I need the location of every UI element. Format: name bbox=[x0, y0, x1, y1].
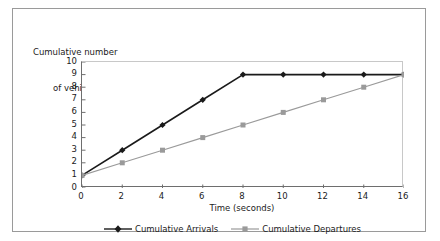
data-point-marker bbox=[82, 173, 85, 178]
data-point-marker bbox=[320, 72, 326, 78]
chart-figure: Cumulative number of vehicles 0123456789… bbox=[0, 0, 440, 241]
data-point-marker bbox=[200, 135, 205, 140]
data-point-marker bbox=[361, 85, 366, 90]
y-tick-label: 6 bbox=[61, 107, 77, 116]
legend-item-cumulative-arrivals: Cumulative Arrivals bbox=[103, 224, 218, 234]
y-axis-title-line-1: Cumulative number bbox=[33, 46, 213, 58]
y-tick-label: 2 bbox=[61, 157, 77, 166]
legend-item-cumulative-departures: Cumulative Departures bbox=[230, 224, 361, 234]
y-tick-label: 5 bbox=[61, 120, 77, 129]
x-tick-label: 2 bbox=[109, 191, 133, 201]
y-tick-label: 3 bbox=[61, 145, 77, 154]
x-axis-tick-labels: 0246810121416 bbox=[81, 191, 403, 203]
chart-frame: Cumulative number of vehicles 0123456789… bbox=[12, 8, 426, 232]
legend-marker-square-icon bbox=[230, 224, 260, 234]
y-tick-label: 7 bbox=[61, 94, 77, 103]
x-axis-title: Time (seconds) bbox=[81, 203, 403, 213]
legend-marker-diamond-icon bbox=[103, 224, 133, 234]
data-point-marker bbox=[120, 160, 125, 165]
plot-svg bbox=[82, 62, 404, 188]
data-point-marker bbox=[321, 97, 326, 102]
data-point-marker bbox=[241, 123, 246, 128]
series-layer bbox=[82, 62, 404, 188]
plot-area bbox=[81, 61, 403, 187]
x-tick-label: 0 bbox=[69, 191, 93, 201]
x-tick-label: 4 bbox=[150, 191, 174, 201]
y-tick-label: 10 bbox=[61, 57, 77, 66]
data-point-marker bbox=[361, 72, 367, 78]
x-tick-label: 10 bbox=[270, 191, 294, 201]
legend-label-cumulative-departures: Cumulative Departures bbox=[262, 224, 361, 234]
y-axis-tick-labels: 012345678910 bbox=[59, 61, 77, 187]
x-tick-label: 14 bbox=[351, 191, 375, 201]
y-tick-label: 8 bbox=[61, 82, 77, 91]
x-tick-label: 8 bbox=[230, 191, 254, 201]
data-point-marker bbox=[281, 110, 286, 115]
x-tick-label: 6 bbox=[190, 191, 214, 201]
chart-legend: Cumulative Arrivals Cumulative Departure… bbox=[25, 221, 439, 237]
legend-label-cumulative-arrivals: Cumulative Arrivals bbox=[135, 224, 218, 234]
data-point-marker bbox=[402, 72, 405, 77]
data-point-marker bbox=[160, 148, 165, 153]
y-tick-label: 4 bbox=[61, 132, 77, 141]
x-tick-label: 12 bbox=[311, 191, 335, 201]
y-tick-label: 1 bbox=[61, 170, 77, 179]
y-tick-label: 9 bbox=[61, 69, 77, 78]
data-point-marker bbox=[280, 72, 286, 78]
x-tick-label: 16 bbox=[391, 191, 415, 201]
